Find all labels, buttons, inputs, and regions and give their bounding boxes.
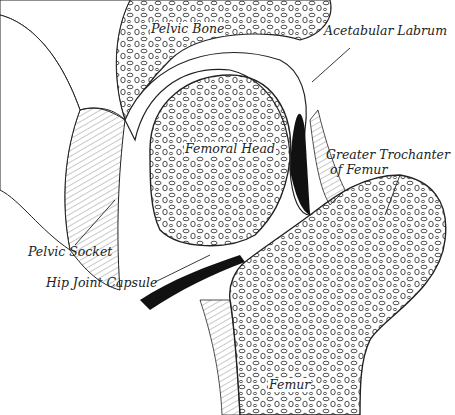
hip-joint-diagram: Pelvic Bone Acetabular Labrum Femoral He… xyxy=(0,0,455,415)
label-greater-trochanter-line2: of Femur xyxy=(330,163,387,177)
label-greater-trochanter-line1: Greater Trochanter xyxy=(326,148,450,162)
label-pelvic-bone: Pelvic Bone xyxy=(150,22,225,36)
label-pelvic-socket: Pelvic Socket xyxy=(28,245,112,259)
label-femoral-head: Femoral Head xyxy=(184,142,276,156)
label-femur: Femur xyxy=(268,378,311,392)
hip-anatomy-illustration xyxy=(0,0,455,415)
femoral-head-shape xyxy=(150,75,291,246)
label-acetabular-labrum: Acetabular Labrum xyxy=(324,24,447,38)
label-hip-joint-capsule: Hip Joint Capsule xyxy=(46,276,157,290)
leader-acetabular-labrum xyxy=(312,48,350,82)
